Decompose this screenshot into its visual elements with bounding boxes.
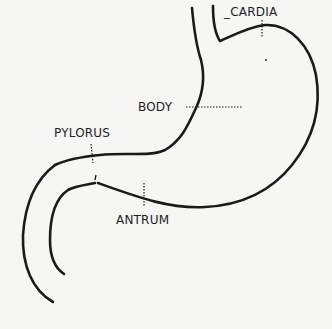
stomach-diagram [0,0,332,329]
fundus-dot-mark [265,59,267,61]
pylorus-label: PYLORUS [54,127,110,139]
pylorus-tick-mark [95,175,96,180]
body-label: BODY [138,101,172,113]
antrum-label: ANTRUM [116,214,169,226]
duodenum-inner-outline [50,183,95,274]
lesser-curvature-outline [55,8,203,165]
cardia-label: _CARDIA [224,6,277,18]
pylorus-leader [91,144,93,163]
